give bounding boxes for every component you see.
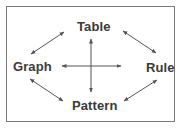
node-pattern: Pattern: [72, 99, 118, 112]
node-table: Table: [77, 20, 111, 33]
node-rule: Rule: [146, 61, 175, 74]
arrow-pattern-rule: [124, 80, 157, 101]
node-graph: Graph: [13, 60, 52, 73]
arrow-table-rule: [123, 31, 156, 53]
arrow-graph-pattern: [30, 79, 63, 101]
arrow-graph-table: [31, 32, 64, 54]
